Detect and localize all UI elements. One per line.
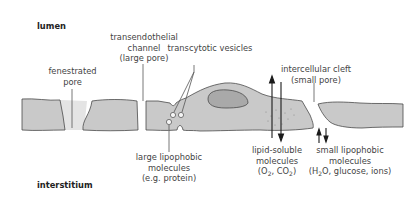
endothelial-cell-2 [83, 100, 138, 131]
small-lipophobic-molecules-label: small lipophobic molecules (H2O, glucose… [305, 145, 395, 177]
intercellular-cleft-label: intercellular cleft (small pore) [276, 64, 356, 85]
vesicle [166, 119, 171, 124]
endothelial-cell-left [22, 99, 65, 131]
interstitium-label: interstitium [37, 180, 93, 190]
vesicle [178, 112, 183, 117]
fenestrated-pore-label: fenestrated pore [45, 66, 100, 87]
lumen-label: lumen [37, 21, 66, 31]
large-lipophobic-molecules-label: large lipophobic molecules (e.g. protein… [128, 152, 210, 184]
capillary-exchange-diagram: lumen interstitium fenestrated pore tran… [0, 0, 414, 208]
transcytotic-vesicles-label: transcytotic vesicles [160, 43, 260, 54]
vesicle [170, 112, 175, 117]
lipid-soluble-molecules-label: lipid-soluble molecules (O2, CO2) [241, 145, 313, 177]
endothelial-cell-right [318, 102, 403, 128]
